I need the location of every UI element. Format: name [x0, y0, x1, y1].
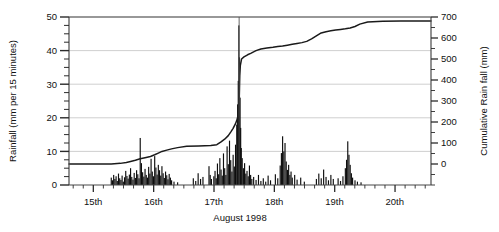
plot-frame: [69, 17, 431, 185]
y2-tick-label: 400: [441, 74, 457, 85]
x-tick-label: 20th: [386, 196, 405, 207]
y-tick-label: 10: [46, 146, 57, 157]
x-axis-title: August 1998: [213, 212, 266, 223]
y2-tick-label: 100: [441, 137, 457, 148]
x-tick-label: 16th: [144, 196, 163, 207]
y-tick-label: 40: [46, 45, 57, 56]
y2-tick-label: 0: [441, 158, 446, 169]
x-tick-label: 15th: [84, 196, 103, 207]
y-tick-label: 50: [46, 11, 57, 22]
y-tick-label: 20: [46, 112, 57, 123]
x-tick-label: 17th: [205, 196, 224, 207]
y2-tick-label: 300: [441, 95, 457, 106]
rainfall-bars: [111, 25, 362, 185]
y-tick-label: 30: [46, 79, 57, 90]
y2-tick-label: 700: [441, 11, 457, 22]
rainfall-chart: 01020304050 0100200300400500600700 15th1…: [0, 0, 499, 232]
y-axis-title: Rainfall (mm per 15 minutes): [7, 40, 18, 162]
y2-axis-title: Cumulative Rain fall (mm): [478, 46, 489, 155]
y-tick-label: 0: [52, 179, 57, 190]
y2-tick-label: 200: [441, 116, 457, 127]
y2-tick-label: 600: [441, 32, 457, 43]
cumulative-line: [69, 21, 431, 164]
y2-tick-label: 500: [441, 53, 457, 64]
right-axis: 0100200300400500600700: [431, 11, 457, 185]
x-tick-label: 19th: [325, 196, 344, 207]
x-tick-label: 18th: [265, 196, 284, 207]
gridlines: [69, 17, 431, 151]
left-axis: 01020304050: [46, 11, 69, 190]
bottom-axis: 15th16th17th18th19th20th: [73, 185, 425, 207]
chart-canvas: 01020304050 0100200300400500600700 15th1…: [0, 0, 499, 232]
